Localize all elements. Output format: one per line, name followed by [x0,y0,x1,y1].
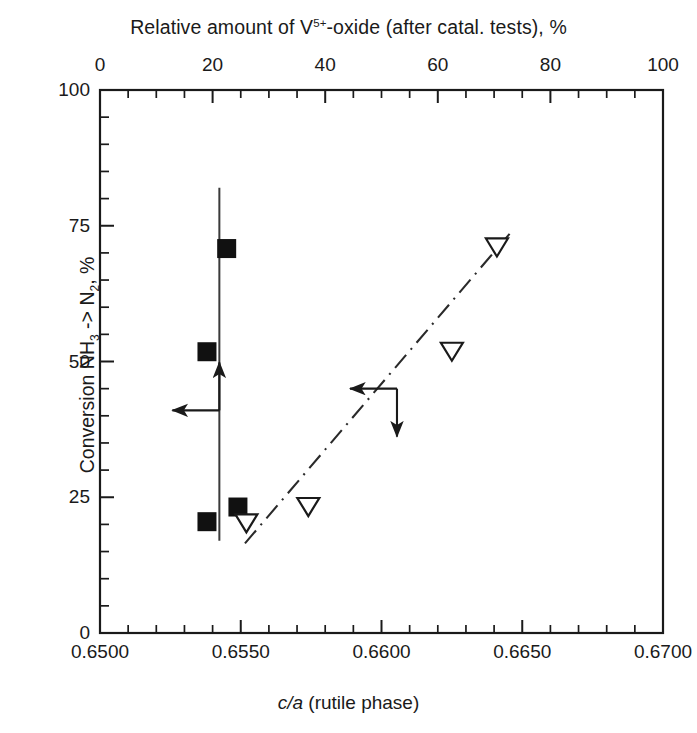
data-series-layer [197,238,507,532]
marker-open-triangle [235,514,257,532]
marker-filled-square [197,342,216,361]
bottom-axis-ticks [100,620,663,633]
y-tick-label-100: 100 [20,79,90,101]
y-tick-label-25: 25 [20,486,90,508]
bottom-tick-label-0.6550: 0.6550 [212,641,270,663]
left-axis-ticks [100,90,114,633]
y-tick-label-0: 0 [20,622,90,644]
top-axis-ticks [100,90,663,103]
top-tick-label-20: 20 [202,54,223,76]
figure-container: Relative amount of V5+-oxide (after cata… [0,0,697,733]
top-tick-label-0: 0 [95,54,106,76]
plot-area [0,0,697,733]
top-tick-label-60: 60 [427,54,448,76]
y-tick-label-75: 75 [20,215,90,237]
left-corner-arrows [172,362,219,410]
y-tick-label-50: 50 [20,351,90,373]
top-tick-label-100: 100 [647,54,679,76]
marker-filled-square [217,239,236,258]
axes-frame [100,90,663,633]
bottom-tick-label-0.6600: 0.6600 [352,641,410,663]
marker-open-triangle [441,343,463,361]
marker-open-triangle [297,498,319,516]
bottom-tick-label-0.6650: 0.6650 [493,641,551,663]
series-filled-squares [197,239,247,531]
marker-open-triangle [486,238,508,256]
top-tick-label-40: 40 [315,54,336,76]
bottom-tick-label-0.6700: 0.6700 [634,641,692,663]
bottom-tick-label-0.6500: 0.6500 [71,641,129,663]
top-tick-label-80: 80 [540,54,561,76]
marker-filled-square [197,512,216,531]
